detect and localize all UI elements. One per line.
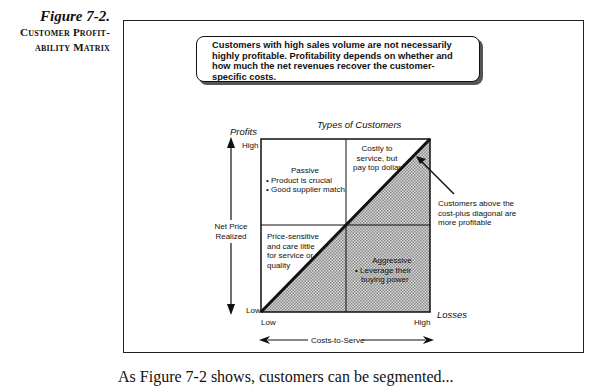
quadrant-passive-title: Passive [266, 166, 344, 176]
quadrant-aggressive: Aggressive • Leverage their buying power [355, 256, 429, 285]
diagonal-annotation: Customers above the cost-plus diagonal a… [438, 199, 516, 228]
matrix-title: Types of Customers [317, 120, 401, 130]
quadrant-passive: Passive • Product is crucial • Good supp… [266, 166, 344, 195]
quadrant-passive-bullet-2: • Good supplier match [266, 185, 344, 195]
quadrant-passive-bullet-1: • Product is crucial [266, 176, 344, 186]
quadrant-costly: Costly to service, but pay top dollar [348, 144, 406, 173]
x-axis-label: Costs-to-Serve [311, 336, 364, 346]
x-axis-high-label: High [414, 318, 430, 328]
x-axis-right-label: Losses [437, 310, 467, 320]
x-axis-low-label: Low [261, 318, 276, 328]
y-axis-label: Net Price Realized [213, 222, 249, 241]
quadrant-price-sensitive: Price-sensitive and care little for serv… [267, 232, 343, 270]
y-axis-high-label: High [242, 141, 258, 151]
quadrant-aggressive-title: Aggressive [355, 256, 429, 266]
y-axis-low-label: Low [246, 306, 261, 316]
y-axis-top-label: Profits [230, 127, 257, 137]
body-paragraph: As Figure 7-2 shows, customers can be se… [118, 368, 454, 386]
